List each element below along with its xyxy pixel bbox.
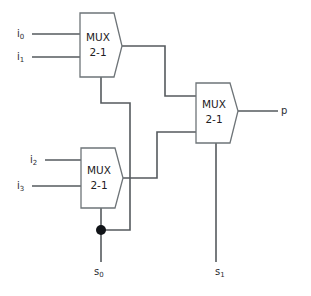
port-label-s1: s1 [215, 266, 225, 279]
mux-top-body[interactable] [80, 13, 122, 77]
mux-right[interactable]: MUX 2-1 [196, 83, 238, 143]
port-label-layer: i0 i1 i2 i3 s0 s1 p [17, 28, 287, 279]
wire-layer [32, 34, 278, 262]
port-label-s0: s0 [94, 266, 104, 279]
wire-mux-top-output [122, 46, 196, 96]
mux-top-label-line1: MUX [86, 31, 110, 43]
port-label-i1: i1 [17, 51, 24, 64]
port-label-p: p [281, 105, 287, 116]
mux-bottom[interactable]: MUX 2-1 [81, 148, 123, 208]
port-label-i3: i3 [17, 180, 24, 193]
wire-mux-bottom-output [123, 132, 196, 178]
s0-junction-dot [96, 225, 106, 235]
mux-right-label-line1: MUX [202, 98, 226, 110]
port-label-i0: i0 [17, 28, 24, 41]
mux-circuit-diagram: MUX 2-1 MUX 2-1 MUX 2-1 i0 i1 i2 [0, 0, 311, 296]
mux-top-label-line2: 2-1 [89, 46, 106, 58]
circuit-canvas: MUX 2-1 MUX 2-1 MUX 2-1 i0 i1 i2 [0, 0, 311, 296]
mux-bottom-body[interactable] [81, 148, 123, 208]
mux-top[interactable]: MUX 2-1 [80, 13, 122, 77]
mux-right-label-line2: 2-1 [205, 113, 222, 125]
mux-bottom-label-line2: 2-1 [90, 179, 107, 191]
mux-bottom-label-line1: MUX [87, 164, 111, 176]
port-label-i2: i2 [30, 154, 37, 167]
